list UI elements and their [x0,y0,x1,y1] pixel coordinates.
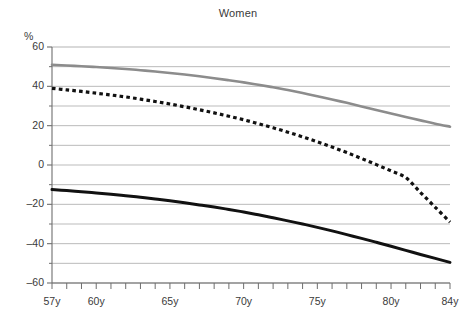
y-axis-tick-label: 40 [10,79,44,91]
y-axis-tick-label: –60 [10,276,44,288]
x-axis-tick-label: 75y [297,295,337,307]
series-line-lower-black-curve [52,190,450,263]
x-axis-tick-label: 84y [430,295,470,307]
y-axis-tick-label: –40 [10,237,44,249]
series-line-middle-dotted-curve [52,88,450,222]
x-axis-tick-label: 65y [150,295,190,307]
chart-container: Women % 6040200–20–40–60 57y60y65y70y75y… [0,0,476,323]
x-axis-tick-label: 57y [32,295,72,307]
series-line-upper-grey-curve [52,65,450,127]
plot-area [0,0,476,323]
y-axis-tick-label: 0 [10,158,44,170]
x-axis-tick-label: 60y [76,295,116,307]
x-axis-ticks-group [52,283,450,289]
x-axis-tick-label: 70y [224,295,264,307]
y-axis-tick-label: –20 [10,197,44,209]
y-axis-tick-label: 20 [10,119,44,131]
y-axis-tick-label: 60 [10,40,44,52]
y-axis-ticks-group [47,47,52,283]
x-axis-tick-label: 80y [371,295,411,307]
data-series-group [52,65,450,263]
